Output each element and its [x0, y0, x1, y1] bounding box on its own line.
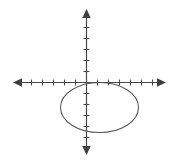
graph-canvas	[0, 0, 173, 164]
y-axis-down-arrowhead-icon	[82, 146, 90, 155]
ellipse-curve	[61, 83, 139, 133]
x-axis-group	[13, 78, 166, 86]
x-axis-right-arrowhead-icon	[157, 78, 166, 86]
coordinate-plane-figure	[0, 0, 173, 164]
